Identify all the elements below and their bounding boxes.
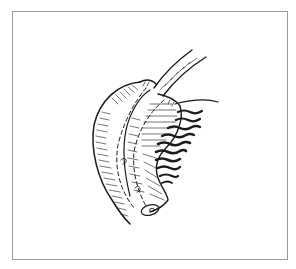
figure-canvas xyxy=(0,0,296,269)
dashed-suture-lines xyxy=(117,82,174,208)
tube xyxy=(154,50,206,96)
fringed-tissue xyxy=(156,100,218,183)
anatomical-illustration xyxy=(0,0,296,269)
